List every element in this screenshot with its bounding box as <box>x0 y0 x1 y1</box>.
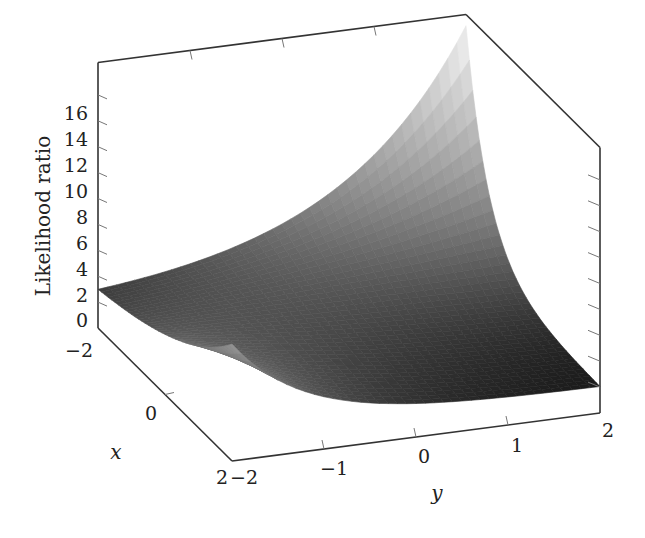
z-tick-mark-right <box>588 175 600 180</box>
z-tick-6: 6 <box>76 232 88 254</box>
z-tick-14: 14 <box>64 128 88 150</box>
top-tick-mark <box>282 39 284 48</box>
z-tick-labels: 16 14 12 10 8 6 4 2 0 −2 <box>64 102 93 361</box>
z-tick-12: 12 <box>64 154 88 176</box>
likelihood-surface <box>98 26 600 404</box>
top-tick-mark <box>374 27 376 36</box>
z-tick-0: 0 <box>76 309 88 331</box>
z-tick-2: 2 <box>76 284 88 306</box>
z-tick-mark-right <box>588 227 600 232</box>
z-tick-mark <box>98 95 107 99</box>
surface-plot: 16 14 12 10 8 6 4 2 0 −2 Likelihood rati… <box>0 0 645 538</box>
y-tick-neg1: −1 <box>320 457 348 479</box>
z-tick-mark <box>98 250 107 254</box>
x-tick-2: 2 <box>216 466 228 488</box>
z-tick-4: 4 <box>76 258 88 280</box>
top-tick-mark <box>190 51 192 60</box>
z-tick-mark-right <box>588 330 600 335</box>
y-axis-label: y <box>430 481 443 505</box>
y-tick-mark <box>322 440 324 449</box>
z-tick-mark <box>98 224 107 228</box>
y-tick-0: 0 <box>418 445 430 467</box>
z-tick-mark-right <box>588 356 600 361</box>
x-tick-0: 0 <box>145 402 157 424</box>
z-tick-mark <box>98 199 107 203</box>
z-axis-label: Likelihood ratio <box>31 136 55 297</box>
x-axis-label: x <box>110 440 121 464</box>
z-tick-mark <box>98 276 107 280</box>
y-tick-2: 2 <box>602 419 614 441</box>
z-tick-8: 8 <box>76 206 88 228</box>
z-tick-mark-right <box>588 279 600 284</box>
z-tick-mark <box>98 147 107 151</box>
y-tick-mark <box>506 416 508 425</box>
z-tick-mark-right <box>588 304 600 309</box>
x-tick-neg2: −2 <box>65 339 93 361</box>
z-tick-mark <box>98 302 107 306</box>
z-tick-mark-right <box>588 201 600 206</box>
z-tick-16: 16 <box>64 102 88 124</box>
z-tick-mark <box>98 173 107 177</box>
y-tick-neg2: −2 <box>230 466 258 488</box>
right-top-edge <box>466 15 600 148</box>
z-tick-10: 10 <box>64 180 88 202</box>
y-tick-1: 1 <box>511 434 523 456</box>
z-tick-mark <box>98 121 107 125</box>
x-tick-mark <box>165 393 174 395</box>
z-tick-mark-right <box>588 253 600 258</box>
y-tick-mark <box>414 428 416 437</box>
